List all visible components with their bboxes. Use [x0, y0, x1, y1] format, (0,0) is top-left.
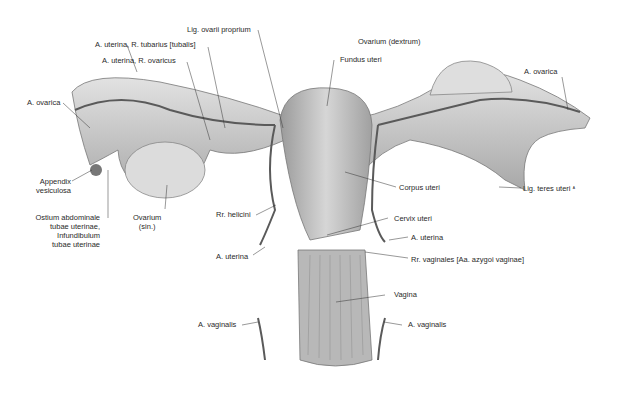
anatomical-illustration [0, 0, 620, 405]
label-a-vaginalis-left: A. vaginalis [198, 320, 236, 329]
label-ovarium-dextrum: Ovarium (dextrum) [358, 37, 421, 46]
label-a-uterina-r-ovaricus: A. uterina, R. ovaricus [102, 56, 176, 65]
label-lig-ovarii-proprium: Lig. ovarii proprium [187, 25, 251, 34]
label-a-uterina-left: A. uterina [216, 252, 248, 261]
label-cervix-uteri: Cervix uteri [394, 214, 432, 223]
uterus [280, 88, 372, 240]
label-rr-vaginales: Rr. vaginales [Aa. azygoi vaginae] [411, 255, 524, 264]
label-a-ovarica-left: A. ovarica [27, 98, 60, 107]
label-corpus-uteri: Corpus uteri [399, 183, 440, 192]
label-a-ovarica-right: A. ovarica [524, 67, 557, 76]
label-a-uterina-r-tubarius: A. uterina, R. tubarius [tubalis] [95, 40, 195, 49]
label-ovarium-sin: Ovarium (sin.) [133, 213, 161, 231]
label-rr-helicini: Rr. helicini [216, 210, 251, 219]
left-ovary [125, 142, 205, 198]
label-a-vaginalis-right: A. vaginalis [408, 320, 446, 329]
label-vagina: Vagina [394, 290, 417, 299]
label-a-uterina-right: A. uterina [411, 233, 443, 242]
label-appendix-vesiculosa: Appendix vesiculosa [35, 177, 71, 195]
label-lig-teres-uteri: Lig. teres uteri ᴬ [523, 184, 575, 193]
label-fundus-uteri: Fundus uteri [340, 55, 382, 64]
label-ostium-abdominale: Ostium abdominale tubae uterinae, Infund… [20, 213, 100, 249]
right-ovary [430, 61, 512, 95]
